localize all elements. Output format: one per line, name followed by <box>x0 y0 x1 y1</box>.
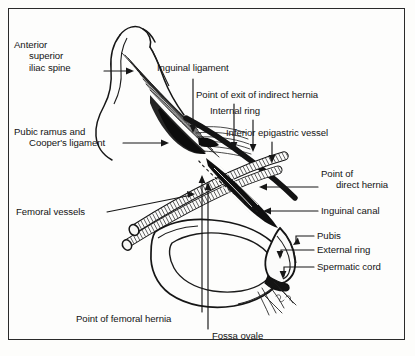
label-line: Pubic ramus and <box>14 126 105 137</box>
label-spermatic-cord: Spermatic cord <box>317 261 381 272</box>
label-fossa-ovale: Fossa ovale <box>212 330 263 341</box>
internal-ring-aperture <box>198 137 219 147</box>
label-point-of-direct-hernia: Point of direct hernia <box>321 168 388 191</box>
label-anterior-superior-iliac-spine: Anterior superior iliac spine <box>14 39 71 73</box>
label-inguinal-ligament: Inguinal ligament <box>157 62 229 73</box>
label-line: Anterior <box>14 39 71 50</box>
label-external-ring: External ring <box>317 244 370 255</box>
label-line: direct hernia <box>321 179 388 190</box>
label-line: Cooper's ligament <box>14 137 105 148</box>
label-pubic-ramus-coopers-ligament: Pubic ramus and Cooper's ligament <box>14 126 105 149</box>
label-line: superior <box>14 50 71 61</box>
label-femoral-vessels: Femoral vessels <box>16 206 85 217</box>
ilium-outline <box>96 27 184 160</box>
label-internal-ring: Internal ring <box>210 105 260 116</box>
anatomical-figure: Anterior superior iliac spine Pubic ramu… <box>0 0 415 356</box>
label-inferior-epigastric-vessel: Inferior epigastric vessel <box>226 127 328 138</box>
label-point-of-exit-indirect-hernia: Point of exit of indirect hernia <box>196 89 318 100</box>
label-point-of-femoral-hernia: Point of femoral hernia <box>76 313 171 324</box>
label-line: iliac spine <box>14 62 71 73</box>
label-pubis: Pubis <box>317 230 341 241</box>
label-inguinal-canal: Inguinal canal <box>321 205 380 216</box>
label-line: Point of <box>321 168 388 179</box>
